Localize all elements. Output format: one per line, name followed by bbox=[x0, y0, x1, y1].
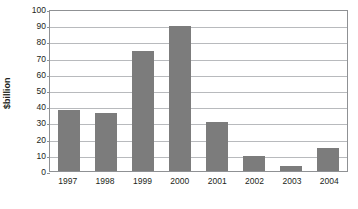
bar-slot bbox=[310, 11, 347, 171]
x-tick-label: 1997 bbox=[49, 176, 86, 186]
x-tick-label: 2003 bbox=[273, 176, 310, 186]
x-tick-label: 2001 bbox=[199, 176, 236, 186]
y-tick-label: 70 bbox=[16, 55, 46, 64]
bar-slot bbox=[87, 11, 124, 171]
caption-remnant bbox=[18, 200, 318, 206]
bar-slot bbox=[199, 11, 236, 171]
y-tick-label: 10 bbox=[16, 152, 46, 161]
x-tick-label: 2002 bbox=[236, 176, 273, 186]
plot-area bbox=[49, 10, 348, 172]
bar-1998 bbox=[95, 113, 117, 171]
bar-slot bbox=[161, 11, 198, 171]
x-tick-label: 2004 bbox=[311, 176, 348, 186]
y-tick-label: 100 bbox=[16, 6, 46, 15]
y-tick-label: 50 bbox=[16, 87, 46, 96]
bar-slot bbox=[124, 11, 161, 171]
bar-1999 bbox=[132, 51, 154, 171]
x-tick-label: 1999 bbox=[124, 176, 161, 186]
bar-slot bbox=[236, 11, 273, 171]
bar-1997 bbox=[58, 110, 80, 171]
bar-chart-figure: $billion 1009080706050403020100 19971998… bbox=[0, 0, 358, 209]
y-axis-tick-labels: 1009080706050403020100 bbox=[16, 10, 46, 172]
y-tick-label: 30 bbox=[16, 119, 46, 128]
y-axis-title: $billion bbox=[2, 58, 16, 128]
y-tick-label: 0 bbox=[16, 168, 46, 177]
bar-2004 bbox=[317, 148, 339, 171]
y-tick-label: 90 bbox=[16, 22, 46, 31]
bar-2000 bbox=[169, 26, 191, 171]
bar-2002 bbox=[243, 156, 265, 171]
bar-2001 bbox=[206, 122, 228, 171]
bar-slot bbox=[50, 11, 87, 171]
x-axis-tick-labels: 19971998199920002001200220032004 bbox=[49, 176, 348, 186]
y-tick-label: 20 bbox=[16, 136, 46, 145]
bar-2003 bbox=[280, 166, 302, 171]
bar-series bbox=[50, 11, 347, 171]
x-tick-label: 1998 bbox=[86, 176, 123, 186]
y-tick-mark bbox=[47, 173, 50, 174]
y-tick-label: 60 bbox=[16, 71, 46, 80]
bar-slot bbox=[273, 11, 310, 171]
x-tick-label: 2000 bbox=[161, 176, 198, 186]
y-tick-label: 80 bbox=[16, 38, 46, 47]
y-tick-label: 40 bbox=[16, 103, 46, 112]
